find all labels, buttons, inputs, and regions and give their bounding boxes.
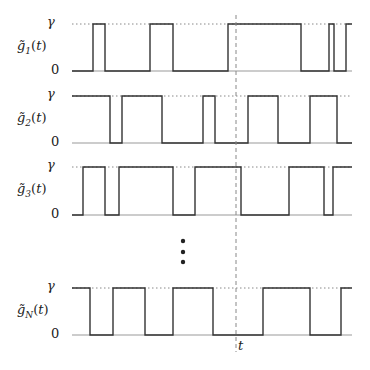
ellipsis-dot — [181, 239, 185, 243]
ellipsis-dot — [181, 250, 185, 254]
signal-waveform — [72, 167, 352, 215]
signal-label: g̃N(t) — [17, 302, 49, 320]
signal-waveform — [72, 96, 352, 143]
telegraph-signal-diagram: γ0g̃1(t)γ0g̃2(t)γ0g̃3(t)γ0g̃N(t) t — [0, 0, 370, 370]
signal-label: g̃1(t) — [17, 38, 46, 56]
gamma-label: γ — [47, 14, 55, 29]
signal-label: g̃2(t) — [17, 110, 46, 128]
gamma-label: γ — [47, 86, 55, 101]
gamma-label: γ — [47, 157, 55, 172]
signal-waveform — [72, 24, 352, 71]
time-marker-label: t — [238, 338, 243, 353]
zero-label: 0 — [51, 206, 59, 221]
signal-label: g̃3(t) — [17, 181, 46, 199]
signal-waveform — [72, 288, 352, 335]
zero-label: 0 — [51, 326, 59, 341]
ellipsis-dot — [181, 260, 185, 264]
signal-plot — [0, 0, 370, 370]
zero-label: 0 — [51, 62, 59, 77]
zero-label: 0 — [51, 134, 59, 149]
gamma-label: γ — [47, 278, 55, 293]
